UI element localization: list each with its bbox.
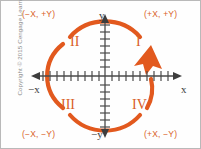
- quadrant-label-i: I: [136, 35, 141, 49]
- arrow-right-icon: [173, 72, 182, 80]
- corner-label-top-right: (+X, +Y): [144, 10, 177, 19]
- corner-label-bottom-left: (−X, −Y): [22, 130, 55, 139]
- x-axis-label: x: [181, 84, 187, 95]
- corner-label-top-left: (−X, +Y): [22, 10, 55, 19]
- arrow-left-icon: [31, 72, 40, 80]
- quadrant-label-ii: II: [70, 35, 79, 49]
- copyright-notice: Copyright © 2015 Cengage Learning®: [16, 2, 23, 96]
- arrowhead-icon: [134, 45, 162, 75]
- quadrant-diagram: (−X, +Y) (+X, +Y) (−X, −Y) (+X, −Y) I II…: [0, 0, 201, 149]
- negative-x-axis-label: −x: [28, 84, 40, 95]
- quadrant-label-iii: III: [61, 98, 75, 112]
- coordinate-plane-graphic: [1, 1, 201, 149]
- y-axis-label: y: [99, 10, 105, 21]
- quadrant-label-iv: IV: [132, 98, 147, 112]
- negative-y-axis-label: −y: [91, 129, 103, 140]
- corner-label-bottom-right: (+X, −Y): [144, 130, 177, 139]
